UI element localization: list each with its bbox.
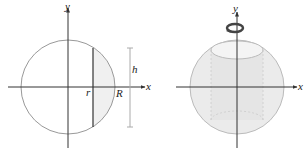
label-h: h xyxy=(132,63,138,75)
diagram-canvas: y x r R h y x xyxy=(0,0,305,154)
x-axis-label-right: x xyxy=(297,80,303,92)
y-axis-label-right: y xyxy=(232,2,238,14)
x-axis-label: x xyxy=(145,80,151,92)
left-figure: y x r R h xyxy=(8,0,151,148)
rotation-arrow-icon xyxy=(226,24,243,33)
label-r: r xyxy=(86,86,91,98)
y-axis-label: y xyxy=(64,0,70,12)
right-figure: y x xyxy=(176,2,303,148)
label-R: R xyxy=(115,87,123,99)
